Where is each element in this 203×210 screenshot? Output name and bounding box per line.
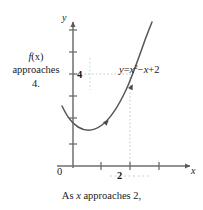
limit-figure: f(x) approaches 4. y=x2−x+2 y x 0 4 2 As… (0, 0, 203, 210)
x-tick-label-2: 2 (117, 170, 122, 182)
parabola-curve (62, 22, 152, 130)
equation-label: y=x2−x+2 (119, 64, 160, 76)
equation-term3: 2 (154, 64, 159, 75)
origin-label: 0 (57, 166, 62, 178)
caption-pre: As (62, 190, 76, 201)
fx-approaches-line1: f(x) (2, 50, 70, 63)
parabola-plot (0, 0, 203, 210)
curve-arrow-lower (103, 118, 110, 125)
y-axis-label: y (62, 12, 66, 23)
fx-argument: (x) (31, 51, 43, 62)
fx-approaches-note: f(x) approaches 4. (2, 50, 70, 90)
y-tick-label-4: 4 (77, 69, 82, 81)
figure-caption: As x approaches 2, (0, 190, 203, 202)
fx-approaches-line2: approaches (2, 63, 70, 76)
caption-post: approaches 2, (81, 190, 141, 201)
fx-approaches-line3: 4. (2, 77, 70, 90)
x-axis-label: x (191, 165, 195, 176)
